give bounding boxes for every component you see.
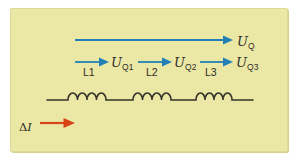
circuit-diagram-svg	[10, 8, 288, 152]
voltage-symbol-uq3: U	[236, 55, 247, 70]
current-label: ΔI	[19, 118, 32, 134]
voltage-arrow-l2-head-icon	[162, 58, 172, 67]
voltage-arrow-l3-head-icon	[223, 58, 233, 67]
inductor-label-l3: L3	[205, 67, 217, 78]
total-voltage-arrowhead-icon	[223, 36, 233, 45]
voltage-label-uq2: UQ2	[174, 56, 197, 69]
current-symbol: I	[27, 120, 32, 134]
page: UQ UQ1 UQ2 UQ3 L1 L2 L3 ΔI	[0, 0, 297, 164]
voltage-symbol-uq1: U	[111, 55, 122, 70]
inductor-chain-wire	[47, 93, 253, 100]
voltage-subscript-uq2: Q2	[185, 63, 197, 72]
voltage-label-uq1: UQ1	[111, 56, 134, 69]
total-voltage-subscript: Q	[248, 42, 255, 51]
voltage-symbol-uq2: U	[174, 55, 185, 70]
total-voltage-arrow	[75, 36, 233, 45]
current-arrowhead-icon	[64, 118, 76, 128]
voltage-label-uq3: UQ3	[236, 56, 259, 69]
series-inductors-diagram: UQ UQ1 UQ2 UQ3 L1 L2 L3 ΔI	[10, 8, 288, 152]
voltage-arrow-l1-head-icon	[99, 58, 109, 67]
inductor-label-l1: L1	[83, 67, 95, 78]
voltage-subscript-uq1: Q1	[122, 63, 134, 72]
total-voltage-label: UQ	[237, 35, 255, 48]
voltage-subscript-uq3: Q3	[247, 63, 259, 72]
current-arrow	[40, 118, 75, 128]
inductor-label-l2: L2	[146, 67, 158, 78]
total-voltage-symbol: U	[237, 34, 248, 49]
